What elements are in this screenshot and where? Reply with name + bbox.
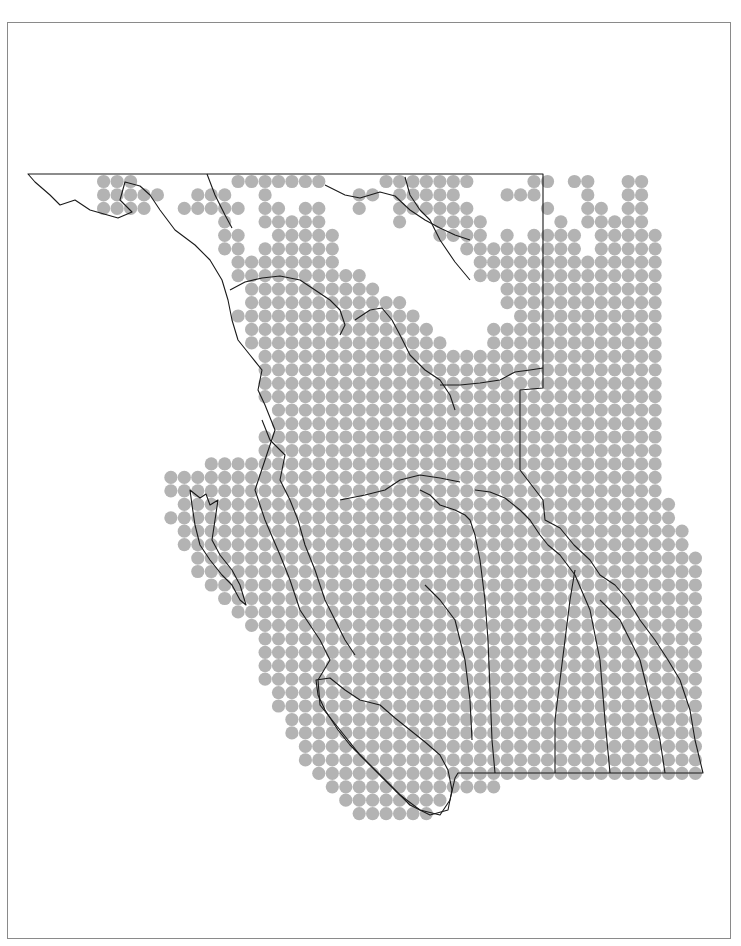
occurrence-dot [662, 686, 675, 699]
occurrence-dot [581, 605, 594, 618]
occurrence-dot [635, 296, 648, 309]
occurrence-dot [433, 780, 446, 793]
occurrence-dot [501, 673, 514, 686]
occurrence-dot [272, 215, 285, 228]
occurrence-dot [393, 430, 406, 443]
occurrence-dot [245, 565, 258, 578]
occurrence-dot [568, 471, 581, 484]
occurrence-dot [312, 552, 325, 565]
occurrence-dot [299, 256, 312, 269]
occurrence-dot [393, 807, 406, 820]
occurrence-dot [447, 444, 460, 457]
occurrence-dot [259, 336, 272, 349]
occurrence-dot [595, 498, 608, 511]
occurrence-dot [635, 726, 648, 739]
occurrence-dot [474, 726, 487, 739]
occurrence-dot [447, 686, 460, 699]
occurrence-dot [447, 484, 460, 497]
occurrence-dot [353, 296, 366, 309]
occurrence-dot [595, 202, 608, 215]
occurrence-dot [581, 269, 594, 282]
occurrence-dot [514, 498, 527, 511]
occurrence-dot [608, 740, 621, 753]
occurrence-dot [581, 484, 594, 497]
occurrence-dot [635, 740, 648, 753]
occurrence-dot [326, 686, 339, 699]
occurrence-dot [393, 309, 406, 322]
occurrence-dot [460, 390, 473, 403]
occurrence-dot [514, 673, 527, 686]
occurrence-dot [380, 673, 393, 686]
occurrence-dot [447, 215, 460, 228]
occurrence-dot [339, 605, 352, 618]
occurrence-dot [353, 309, 366, 322]
occurrence-dot [433, 767, 446, 780]
occurrence-dot [568, 740, 581, 753]
occurrence-dot [501, 605, 514, 618]
occurrence-dot [622, 592, 635, 605]
occurrence-dot [232, 309, 245, 322]
occurrence-dot [97, 188, 110, 201]
occurrence-dot [353, 377, 366, 390]
occurrence-dot [474, 632, 487, 645]
occurrence-dot [259, 605, 272, 618]
occurrence-dot [393, 713, 406, 726]
occurrence-dot [326, 578, 339, 591]
occurrence-dot [366, 699, 379, 712]
occurrence-dot [501, 646, 514, 659]
occurrence-dot [608, 296, 621, 309]
occurrence-dot [501, 726, 514, 739]
occurrence-dot [433, 605, 446, 618]
occurrence-dot [662, 565, 675, 578]
occurrence-dot [205, 525, 218, 538]
occurrence-dot [635, 699, 648, 712]
occurrence-dot [527, 444, 540, 457]
occurrence-dot [420, 498, 433, 511]
occurrence-dot [581, 390, 594, 403]
occurrence-dot [514, 336, 527, 349]
occurrence-dot [635, 283, 648, 296]
occurrence-dot [649, 336, 662, 349]
occurrence-dot [501, 740, 514, 753]
occurrence-dot [568, 242, 581, 255]
occurrence-dot [339, 565, 352, 578]
occurrence-dot [406, 699, 419, 712]
occurrence-dot [178, 525, 191, 538]
occurrence-dot [447, 350, 460, 363]
occurrence-dot [366, 552, 379, 565]
occurrence-dot [433, 336, 446, 349]
occurrence-dot [608, 646, 621, 659]
occurrence-dot [541, 713, 554, 726]
occurrence-dot [245, 592, 258, 605]
occurrence-dot [635, 256, 648, 269]
occurrence-dot [353, 417, 366, 430]
occurrence-dot [366, 794, 379, 807]
occurrence-dot [608, 377, 621, 390]
occurrence-dot [608, 256, 621, 269]
occurrence-dot [447, 188, 460, 201]
occurrence-dot [689, 632, 702, 645]
occurrence-dot [514, 296, 527, 309]
occurrence-dot [541, 686, 554, 699]
occurrence-dot [514, 538, 527, 551]
occurrence-dot [353, 686, 366, 699]
occurrence-dot [554, 444, 567, 457]
occurrence-dot [353, 525, 366, 538]
occurrence-dot [527, 619, 540, 632]
occurrence-dot [420, 430, 433, 443]
occurrence-dot [595, 753, 608, 766]
occurrence-dot [420, 646, 433, 659]
occurrence-dot [312, 390, 325, 403]
occurrence-dot [178, 511, 191, 524]
occurrence-dot [272, 632, 285, 645]
occurrence-dot [460, 404, 473, 417]
occurrence-dot [474, 430, 487, 443]
occurrence-dot [501, 713, 514, 726]
occurrence-dot [339, 471, 352, 484]
occurrence-dot [487, 592, 500, 605]
occurrence-dot [608, 430, 621, 443]
occurrence-dot [689, 659, 702, 672]
occurrence-dot [662, 605, 675, 618]
occurrence-dot [285, 404, 298, 417]
occurrence-dot [635, 457, 648, 470]
